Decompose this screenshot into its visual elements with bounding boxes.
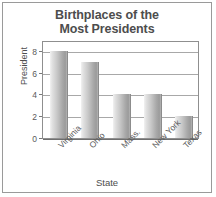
y-tick-mark [39,94,42,95]
x-axis-title: State [3,177,211,188]
chart-title-line-1: Birthplaces of the [3,8,211,22]
y-tick-mark [39,51,42,52]
y-tick-mark [39,116,42,117]
bar-ohio [81,62,99,138]
bar-mass [113,94,131,138]
y-tick-label: 0 [23,135,37,143]
bar-virginia [50,51,68,138]
chart-title: Birthplaces of the Most Presidents [3,8,211,36]
chart-title-line-2: Most Presidents [3,22,211,36]
y-axis-title: President [19,26,29,106]
chart-figure: Birthplaces of the Most Presidents 02468… [2,2,212,193]
y-tick-label: 2 [23,113,37,121]
bar-new-york [144,94,162,138]
y-tick-mark [39,73,42,74]
y-tick-mark [39,138,42,139]
